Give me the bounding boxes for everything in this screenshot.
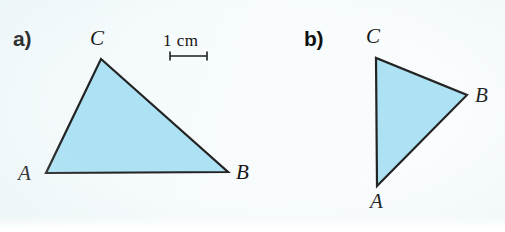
vertex-label-a-A: A xyxy=(18,163,31,184)
scale-bar xyxy=(170,52,207,61)
figures-layer xyxy=(0,0,505,232)
vertex-label-b-C: C xyxy=(366,26,380,47)
vertex-label-a-C: C xyxy=(90,28,104,49)
triangle-b xyxy=(376,58,467,186)
scale-bar-label: 1 cm xyxy=(163,32,199,49)
part-label-b: b) xyxy=(304,28,323,49)
triangle-a xyxy=(46,59,228,173)
vertex-label-a-B: B xyxy=(236,162,249,183)
part-label-a: a) xyxy=(13,28,31,49)
worksheet-figure-panel: a) b) A B C A B C 1 cm xyxy=(0,0,505,232)
vertex-label-b-A: A xyxy=(370,191,383,212)
vertex-label-b-B: B xyxy=(475,85,488,106)
